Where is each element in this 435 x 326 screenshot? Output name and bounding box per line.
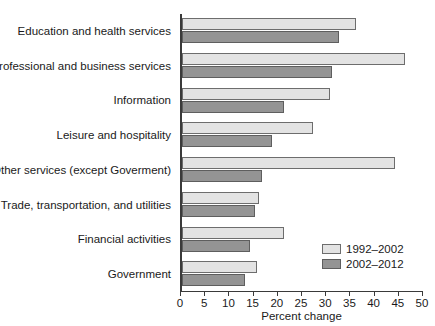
bar-light [182, 157, 395, 169]
bar-light [182, 18, 356, 30]
bar-light [182, 122, 313, 134]
bar-group [182, 14, 435, 49]
category-label: Government [0, 257, 176, 292]
bar-group [182, 153, 435, 188]
bar-dark [182, 135, 272, 147]
x-axis-title: Percent change [180, 310, 423, 322]
x-tick-mark [204, 291, 205, 296]
x-tick-label: 35 [343, 297, 356, 309]
category-label: Financial activities [0, 223, 176, 258]
bar-group [182, 118, 435, 153]
bar-dark [182, 66, 332, 78]
bar-chart: Education and health services Profession… [0, 0, 435, 326]
x-tick-label: 10 [222, 297, 235, 309]
category-label: Trade, transportation, and utilities [0, 188, 176, 223]
bar-group [182, 49, 435, 84]
x-tick-mark [398, 291, 399, 296]
bar-light [182, 227, 284, 239]
x-tick-label: 5 [201, 297, 207, 309]
legend-label: 1992–2002 [346, 243, 404, 255]
bar-group [182, 188, 435, 223]
bar-light [182, 192, 259, 204]
x-tick-label: 30 [319, 297, 332, 309]
category-label: Leisure and hospitality [0, 118, 176, 153]
x-tick-label: 50 [416, 297, 429, 309]
x-tick-label: 40 [367, 297, 380, 309]
bar-dark [182, 101, 284, 113]
x-tick-label: 45 [391, 297, 404, 309]
bar-light [182, 53, 405, 65]
legend-label: 2002–2012 [346, 258, 404, 270]
category-label: Education and health services [0, 14, 176, 49]
category-label: Other services (except Goverment) [0, 153, 176, 188]
legend-swatch-icon [322, 259, 341, 269]
x-tick-mark [228, 291, 229, 296]
x-tick-label: 25 [295, 297, 308, 309]
bar-light [182, 88, 330, 100]
bar-dark [182, 274, 245, 286]
x-tick-mark [301, 291, 302, 296]
x-tick-mark [374, 291, 375, 296]
bar-group [182, 84, 435, 119]
x-tick-mark [422, 291, 423, 296]
x-tick-label: 15 [246, 297, 259, 309]
legend-item-2002-2012: 2002–2012 [322, 258, 404, 270]
legend-item-1992-2002: 1992–2002 [322, 243, 404, 255]
category-label: Information [0, 84, 176, 119]
x-tick-label: 20 [270, 297, 283, 309]
x-tick-mark [277, 291, 278, 296]
bar-light [182, 261, 257, 273]
x-tick-mark [180, 291, 181, 296]
category-axis-labels: Education and health services Profession… [0, 14, 176, 292]
x-tick-label: 0 [177, 297, 183, 309]
bar-dark [182, 240, 250, 252]
bar-dark [182, 170, 262, 182]
x-tick-mark [253, 291, 254, 296]
x-tick-mark [325, 291, 326, 296]
legend-swatch-icon [322, 244, 341, 254]
chart-legend: 1992–2002 2002–2012 [322, 243, 404, 270]
x-tick-mark [349, 291, 350, 296]
bar-dark [182, 31, 339, 43]
category-label: Professional and business services [0, 49, 176, 84]
bar-dark [182, 205, 255, 217]
